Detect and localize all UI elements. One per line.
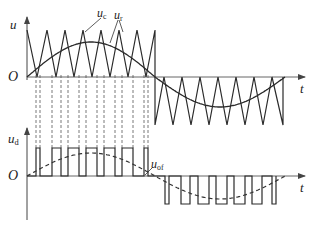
fundamental-label-sub: of bbox=[157, 163, 164, 172]
reference-label-sub: r bbox=[120, 14, 123, 23]
reference-sine-wave bbox=[27, 42, 285, 107]
top-origin-label: O bbox=[8, 70, 18, 84]
spwm-diagram bbox=[0, 0, 316, 230]
bottom-x-axis-label: t bbox=[300, 181, 304, 194]
bottom-plot bbox=[27, 128, 305, 220]
carrier-label-sub: c bbox=[103, 12, 106, 21]
bottom-origin-label: O bbox=[8, 169, 18, 183]
top-x-axis-label: t bbox=[300, 82, 304, 95]
bottom-y-axis-label: ud bbox=[8, 132, 19, 147]
reference-label: ur bbox=[114, 9, 123, 23]
fundamental-label: uof bbox=[151, 158, 164, 172]
carrier-label: uc bbox=[97, 7, 106, 21]
top-y-axis-label: u bbox=[10, 18, 17, 31]
dashed-projection-lines bbox=[36, 75, 148, 148]
bottom-y-label-sub: d bbox=[15, 137, 19, 147]
top-plot bbox=[27, 17, 305, 125]
